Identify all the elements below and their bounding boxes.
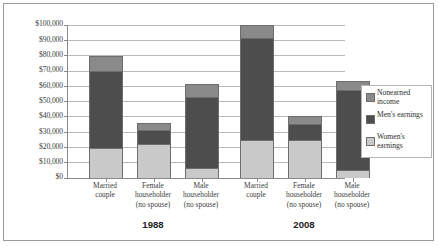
gridline: [68, 25, 345, 26]
bar-segment-mens-earnings: [185, 97, 219, 168]
y-axis-tick-mark: [64, 147, 68, 148]
y-axis-tick-label: $100,000: [11, 20, 63, 28]
bar-segment-women-earnings: [89, 148, 123, 178]
legend-item: Nonearned income: [366, 90, 430, 110]
bar-stack: [185, 84, 219, 177]
gridline: [68, 40, 345, 41]
chart-legend: Nonearned incomeMen's earningsWomen's ea…: [361, 85, 432, 158]
y-axis-tick-label: $90,000: [11, 36, 63, 44]
bar-stack: [288, 116, 322, 178]
y-axis-tick-label: $50,000: [11, 97, 63, 105]
y-axis-tick-label: $70,000: [11, 66, 63, 74]
group-label-2008: 2008: [259, 219, 349, 230]
y-axis-tick-label: $30,000: [11, 128, 63, 136]
legend-swatch-icon: [366, 137, 375, 146]
legend-item: Men's earnings: [366, 112, 430, 132]
bar-segment-women-earnings: [185, 168, 219, 178]
bar-segment-nonearned-income: [240, 25, 274, 38]
legend-label: Women's earnings: [377, 133, 430, 150]
y-axis-tick-mark: [64, 86, 68, 87]
y-axis-tick-mark: [64, 40, 68, 41]
y-axis-tick-label: $80,000: [11, 51, 63, 59]
category-label-line: householder: [317, 190, 387, 199]
group-label-1988: 1988: [108, 219, 198, 230]
bar-stack: [137, 123, 171, 177]
y-axis-tick-mark: [64, 132, 68, 133]
bar-segment-nonearned-income: [288, 116, 322, 124]
bar-segment-mens-earnings: [288, 124, 322, 140]
bar-segment-mens-earnings: [89, 71, 123, 148]
legend-label: Men's earnings: [377, 111, 430, 120]
x-axis-category-label: Malehouseholder(no spouse): [317, 181, 387, 209]
y-axis-tick-label: $20,000: [11, 143, 63, 151]
plot-area: [67, 25, 345, 178]
bar-segment-mens-earnings: [137, 130, 171, 144]
bar-segment-women-earnings: [288, 140, 322, 178]
y-axis-tick-mark: [64, 101, 68, 102]
bar-segment-nonearned-income: [185, 84, 219, 96]
legend-swatch-icon: [366, 93, 375, 102]
y-axis-tick-mark: [64, 71, 68, 72]
bar-segment-mens-earnings: [240, 38, 274, 141]
legend-label: Nonearned income: [377, 89, 430, 106]
bar-segment-women-earnings: [240, 140, 274, 178]
y-axis-tick-mark: [64, 25, 68, 26]
y-axis-tick-mark: [64, 55, 68, 56]
category-label-line: Male: [317, 181, 387, 190]
y-axis-tick-label: $40,000: [11, 112, 63, 120]
bar-segment-women-earnings: [137, 144, 171, 178]
category-label-line: (no spouse): [317, 200, 387, 209]
y-axis-tick-mark: [64, 178, 68, 179]
bar-stack: [89, 56, 123, 178]
bar-segment-women-earnings: [336, 170, 370, 178]
y-axis-tick-mark: [64, 116, 68, 117]
y-axis-tick-label: $10,000: [11, 158, 63, 166]
y-axis-tick-mark: [64, 162, 68, 163]
category-label-line: (no spouse): [166, 200, 236, 209]
bar-stack: [240, 25, 274, 178]
legend-swatch-icon: [366, 115, 375, 124]
bar-segment-nonearned-income: [137, 123, 171, 130]
chart-frame: $100,000$90,000$80,000$70,000$60,000$50,…: [3, 3, 434, 241]
x-axis-line: [68, 178, 345, 179]
x-axis-category-labels: MarriedcoupleFemalehouseholder(no spouse…: [4, 181, 435, 221]
legend-item: Women's earnings: [366, 134, 430, 154]
y-axis-tick-label: $60,000: [11, 82, 63, 90]
bar-segment-nonearned-income: [89, 56, 123, 71]
